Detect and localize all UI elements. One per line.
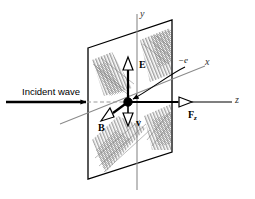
figure-canvas (0, 0, 255, 199)
axis-label-z: z (235, 95, 239, 105)
vector-label-B: B (98, 123, 105, 133)
vector-label-v: v (136, 118, 141, 128)
axis-label-x: x (205, 57, 209, 67)
electron-dot (124, 98, 132, 106)
vector-label-Fz-subscript: z (194, 114, 197, 122)
incident-wave-label: Incident wave (22, 87, 80, 97)
physics-figure: y x z −e Incident wave E B v Fz (0, 0, 255, 199)
vector-label-Fz: Fz (188, 110, 197, 122)
charge-label: −e (178, 56, 188, 65)
axis-label-y: y (140, 9, 144, 19)
vector-label-E: E (139, 60, 146, 70)
